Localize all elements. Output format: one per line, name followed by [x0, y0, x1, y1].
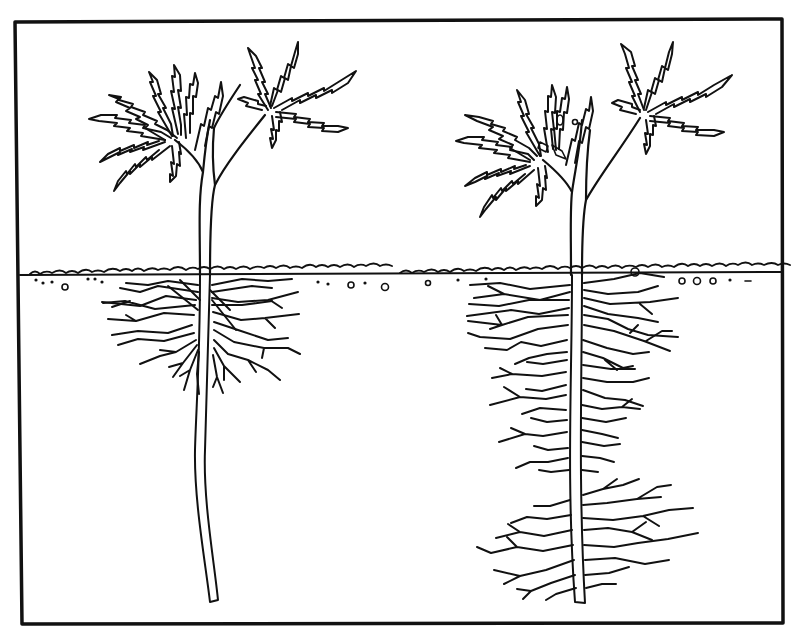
right-seedling	[456, 42, 732, 603]
right-taproot	[570, 275, 585, 603]
right-stem	[543, 118, 640, 275]
soil-pebbles	[35, 268, 751, 291]
left-fibrous-roots	[102, 279, 300, 394]
soil-surface	[20, 263, 790, 276]
right-leaf-cluster-2	[612, 42, 732, 154]
seedling-root-comparison-illustration	[0, 0, 794, 635]
left-leaf-cluster-2	[238, 42, 356, 148]
left-seedling	[89, 42, 356, 602]
left-taproot	[195, 275, 218, 602]
